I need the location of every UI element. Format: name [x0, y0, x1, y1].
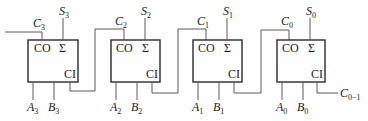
sum-pin-label: Σ: [308, 41, 315, 55]
a2-label: A2: [109, 100, 121, 116]
ci-pin-label: CI: [64, 67, 76, 81]
full-adder-1: CO Σ CI C1 S1 A1 B1: [191, 4, 289, 116]
sum-pin-label: Σ: [142, 41, 149, 55]
b3-label: B3: [48, 100, 59, 116]
s0-label: S0: [306, 4, 316, 20]
co-pin-label: CO: [116, 41, 133, 55]
ripple-carry-adder-diagram: CO Σ CI C3 S3 A3 B3 CO Σ CI C2 S2 A2 B2 …: [0, 0, 368, 121]
a3-label: A3: [26, 100, 38, 116]
sum-pin-label: Σ: [59, 41, 66, 55]
c2-label: C2: [115, 14, 127, 30]
b0-label: B0: [297, 100, 308, 116]
carry-in-label: C0−1: [340, 86, 361, 102]
c3-label: C3: [33, 16, 45, 32]
a0-label: A0: [275, 100, 287, 116]
co-pin-label: CO: [34, 41, 51, 55]
c1-label: C1: [197, 14, 209, 30]
ci-pin-label: CI: [146, 67, 158, 81]
carry-out-wire-3: [5, 32, 42, 40]
co-pin-label: CO: [198, 41, 215, 55]
co-pin-label: CO: [282, 41, 299, 55]
ci-pin-label: CI: [311, 67, 323, 81]
sum-pin-label: Σ: [224, 41, 231, 55]
c0-label: C0: [281, 14, 293, 30]
carry-in-wire: [317, 82, 338, 93]
b1-label: B1: [213, 100, 224, 116]
s2-label: S2: [141, 4, 151, 20]
s1-label: S1: [223, 4, 233, 20]
s3-label: S3: [59, 4, 69, 20]
full-adder-0: CO Σ CI C0 S0 A0 B0 C0−1: [275, 4, 361, 116]
ci-pin-label: CI: [228, 67, 240, 81]
b2-label: B2: [131, 100, 142, 116]
full-adder-3: CO Σ CI C3 S3 A3 B3: [5, 4, 124, 116]
a1-label: A1: [191, 100, 203, 116]
